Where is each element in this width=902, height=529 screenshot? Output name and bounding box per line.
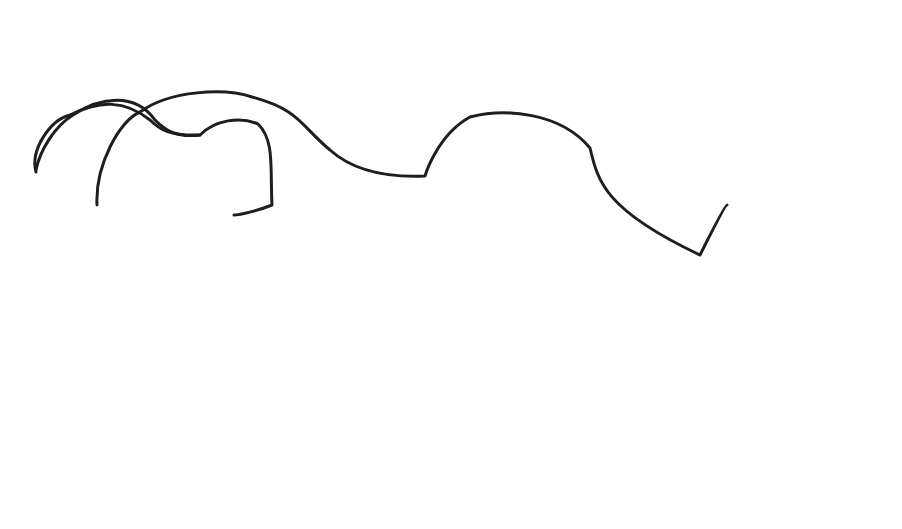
femur-diagram [0, 0, 902, 529]
femur-drawings [0, 0, 902, 529]
panel-a-femur [35, 92, 727, 255]
